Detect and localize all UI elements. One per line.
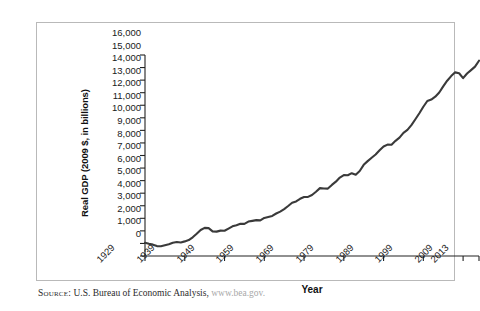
- y-tick-label: 5,000: [93, 166, 141, 176]
- y-tick-label: 9,000: [93, 116, 141, 126]
- y-tick-label: 1,000: [93, 216, 141, 226]
- y-tick-label: 15,000: [93, 41, 141, 51]
- gdp-line-chart-svg: [145, 55, 479, 256]
- y-tick-label: 13,000: [93, 66, 141, 76]
- source-url-link[interactable]: www.bea.gov.: [211, 288, 265, 298]
- source-note: Source: U.S. Bureau of Economic Analysis…: [38, 288, 265, 298]
- y-tick-label: 3,000: [93, 191, 141, 201]
- y-tick-label: 12,000: [93, 78, 141, 88]
- chart-frame: Real GDP (2009 $, in billions) 01,0002,0…: [36, 22, 455, 281]
- y-axis-title: Real GDP (2009 $, in billions): [77, 53, 93, 253]
- y-tick-label: 14,000: [93, 53, 141, 63]
- y-tick-label: 8,000: [93, 129, 141, 139]
- y-tick-label: 16,000: [93, 28, 141, 38]
- y-tick-label: 2,000: [93, 204, 141, 214]
- y-tick-label: 7,000: [93, 141, 141, 151]
- y-axis-tick-labels: 01,0002,0003,0004,0005,0006,0007,0008,00…: [93, 49, 141, 264]
- source-label: Source:: [38, 288, 71, 298]
- gdp-data-line: [145, 61, 479, 247]
- y-tick-label: 11,000: [93, 91, 141, 101]
- y-tick-label: 6,000: [93, 154, 141, 164]
- y-tick-label: 0: [93, 229, 141, 239]
- gdp-figure: Real GDP (2009 $, in billions) 01,0002,0…: [0, 0, 480, 311]
- y-tick-label: 10,000: [93, 103, 141, 113]
- plot-area: [145, 55, 479, 256]
- axes-group: [145, 55, 479, 256]
- source-body-text: U.S. Bureau of Economic Analysis,: [71, 288, 211, 298]
- y-tick-label: 4,000: [93, 179, 141, 189]
